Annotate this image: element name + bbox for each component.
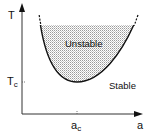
tc-label-sub: c [14, 80, 18, 89]
x-axis-label: a [137, 119, 144, 131]
ac-label: ac [71, 119, 81, 133]
stability-diagram: T a Tc ac Unstable Stable [0, 0, 151, 135]
stable-label: Stable [109, 80, 136, 91]
tc-label: Tc [7, 75, 18, 89]
y-axis-label: T [8, 9, 15, 21]
curve-dashed-right [134, 15, 138, 26]
curve-dashed-left [39, 15, 41, 26]
x-axis-arrow-icon [134, 111, 143, 117]
unstable-label: Unstable [65, 38, 103, 49]
ac-label-sub: c [77, 124, 81, 133]
y-axis-arrow-icon [19, 3, 25, 12]
